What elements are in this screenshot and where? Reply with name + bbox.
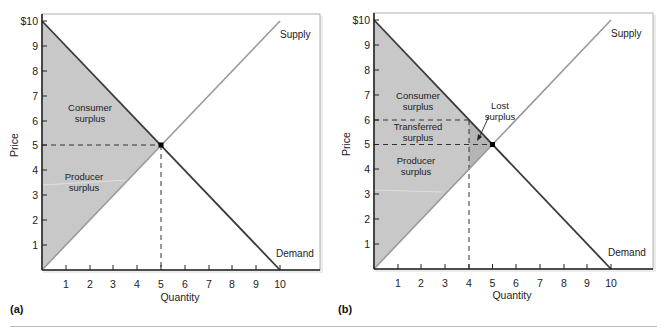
chart-a-svg: $10 9 8 7 6 5 4 3 2 1 1 2 3 4 5 6 7 8 9 …	[0, 0, 332, 320]
producer-surplus-label: Producer	[397, 155, 436, 166]
y-tick-label: 5	[32, 139, 38, 151]
x-tick-label: 3	[110, 278, 116, 290]
x-tick-label: 3	[442, 277, 448, 289]
chart-panel-b: $10 9 8 7 6 5 4 3 2 1 1 2 3 4 5 6 7 8 9 …	[332, 0, 665, 324]
panel-tag-b: (b)	[338, 303, 352, 315]
x-tick-label: 4	[466, 277, 472, 289]
consumer-surplus-label: surplus	[403, 101, 434, 112]
y-tick-label: 7	[364, 89, 370, 101]
y-tick-label: 1	[364, 238, 370, 250]
consumer-surplus-label: surplus	[75, 113, 106, 124]
y-tick-label: 6	[32, 115, 38, 127]
producer-surplus-label: Producer	[65, 171, 104, 182]
x-tick-label: 1	[63, 278, 69, 290]
y-tick-label: 9	[364, 39, 370, 51]
supply-label: Supply	[611, 28, 642, 39]
x-tick-label: 8	[229, 278, 235, 290]
equilibrium-point	[490, 142, 495, 147]
lost-surplus-label: surplus	[485, 111, 516, 122]
x-tick-label: 9	[253, 278, 259, 290]
demand-label: Demand	[276, 248, 314, 259]
bottom-divider	[10, 326, 657, 327]
x-tick-label: 4	[134, 278, 140, 290]
y-tick-label: 3	[32, 189, 38, 201]
supply-label: Supply	[280, 29, 311, 40]
y-axis-title: Price	[340, 132, 352, 156]
x-tick-label: 5	[158, 278, 164, 290]
x-axis-title: Quantity	[492, 289, 532, 301]
y-tick-label: 4	[364, 163, 370, 175]
x-tick-label: 7	[206, 278, 212, 290]
y-tick-label-10: $10	[20, 15, 38, 27]
y-tick-label: 5	[364, 138, 370, 150]
x-tick-label: 6	[513, 277, 519, 289]
consumer-surplus-label: Consumer	[68, 102, 112, 113]
transferred-surplus-label: surplus	[403, 132, 434, 143]
y-axis-title: Price	[8, 133, 20, 157]
y-tick-label: 6	[364, 114, 370, 126]
chart-b-svg: $10 9 8 7 6 5 4 3 2 1 1 2 3 4 5 6 7 8 9 …	[332, 0, 665, 320]
y-tick-label: 9	[32, 40, 38, 52]
y-tick-label: 4	[32, 164, 38, 176]
consumer-surplus-label: Consumer	[396, 90, 440, 101]
panel-tag-a: (a)	[10, 303, 24, 315]
equilibrium-point	[159, 143, 164, 148]
producer-surplus-label: surplus	[401, 166, 432, 177]
y-tick-label: 2	[32, 214, 38, 226]
x-tick-label: 2	[418, 277, 424, 289]
y-tick-label: 3	[364, 188, 370, 200]
x-tick-label: 10	[274, 278, 286, 290]
x-tick-label: 9	[584, 277, 590, 289]
y-tick-label: 1	[32, 239, 38, 251]
x-tick-label: 7	[537, 277, 543, 289]
producer-surplus-label: surplus	[69, 182, 100, 193]
x-tick-label: 6	[182, 278, 188, 290]
demand-label: Demand	[608, 247, 646, 258]
x-tick-label: 2	[87, 278, 93, 290]
x-axis-title: Quantity	[160, 291, 200, 303]
x-tick-label: 5	[490, 277, 496, 289]
y-tick-label: 2	[364, 213, 370, 225]
y-tick-label: 7	[32, 90, 38, 102]
y-tick-label: 8	[364, 64, 370, 76]
x-tick-label: 1	[395, 277, 401, 289]
y-tick-label: 8	[32, 65, 38, 77]
lost-surplus-label: Lost	[491, 100, 509, 111]
y-tick-label-10: $10	[352, 14, 370, 26]
transferred-surplus-label: Transferred	[394, 121, 443, 132]
x-tick-label: 10	[605, 277, 617, 289]
chart-panel-a: $10 9 8 7 6 5 4 3 2 1 1 2 3 4 5 6 7 8 9 …	[0, 0, 332, 324]
x-tick-label: 8	[561, 277, 567, 289]
